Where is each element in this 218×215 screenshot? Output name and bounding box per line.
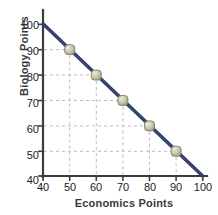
x-axis-title: Economics Points [43, 197, 205, 209]
chart-container: Biology Points 100 90 80 70 60 50 40 [0, 0, 218, 215]
x-tick-label: 90 [161, 182, 191, 193]
data-point-marker[interactable] [91, 70, 101, 80]
x-axis-tick-labels: 40 50 60 70 80 90 100 [0, 182, 218, 198]
data-point-marker[interactable] [171, 146, 181, 156]
grid-lines [44, 50, 176, 176]
data-point-marker[interactable] [118, 96, 128, 106]
x-tick-label: 40 [28, 182, 58, 193]
x-tick-label: 70 [108, 182, 138, 193]
x-tick-label: 100 [188, 182, 218, 193]
x-tick-label: 60 [81, 182, 111, 193]
data-point-marker[interactable] [65, 45, 75, 55]
data-point-marker[interactable] [145, 121, 155, 131]
axis-spines [42, 10, 207, 177]
